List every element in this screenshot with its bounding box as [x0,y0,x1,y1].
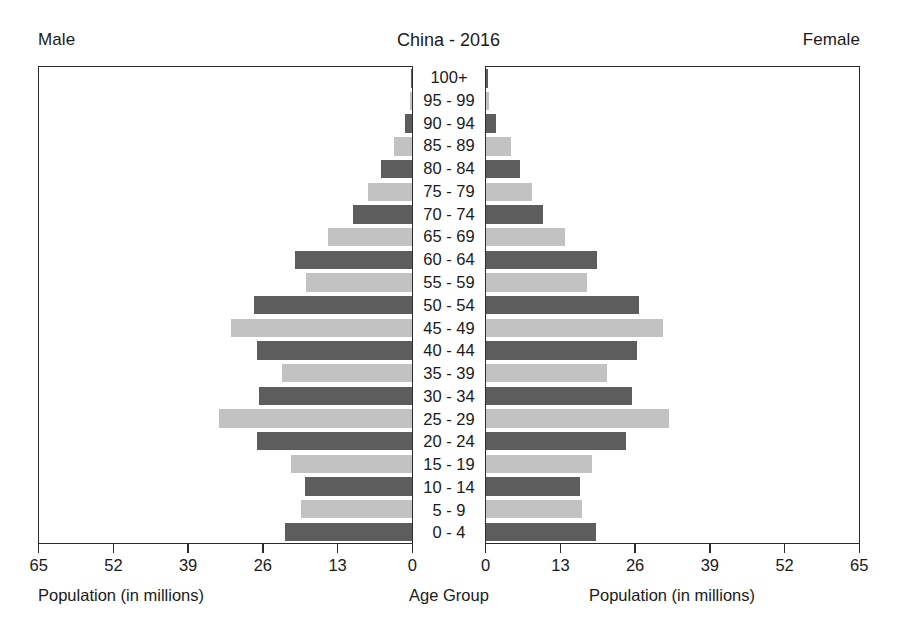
bar-row [486,407,859,430]
female-side-label: Female [803,30,860,50]
bar-row [486,271,859,294]
axis-tick-label: 13 [328,556,346,575]
bar-row [39,316,412,339]
bar-row [486,135,859,158]
bar-row [39,430,412,453]
bar-row [486,498,859,521]
axis-tick-label: 0 [481,556,490,575]
axis-tick [337,544,338,553]
male-bar-rows [39,67,412,543]
age-group-label: 25 - 29 [413,407,485,430]
age-group-label: 30 - 34 [413,385,485,408]
male-bar [282,364,412,382]
bar-row [486,430,859,453]
female-bar [486,273,587,291]
female-axis-caption: Population (in millions) [589,586,755,605]
female-bar [486,137,511,155]
age-group-label: 40 - 44 [413,339,485,362]
bar-row [39,384,412,407]
bar-row [486,67,859,90]
male-bar [295,251,412,269]
female-bar [486,228,565,246]
axis-tick-label: 39 [701,556,719,575]
age-group-label: 100+ [413,66,485,89]
bar-row [486,452,859,475]
bar-row [39,294,412,317]
axis-tick [485,544,486,553]
female-bar [486,205,543,223]
male-bar [411,69,412,87]
age-group-label: 90 - 94 [413,112,485,135]
axis-tick [187,544,188,553]
age-group-axis: 100+95 - 9990 - 9485 - 8980 - 8475 - 797… [413,66,485,544]
bar-row [39,112,412,135]
bar-row [39,248,412,271]
age-group-label: 55 - 59 [413,271,485,294]
bar-row [486,180,859,203]
female-bar [486,160,520,178]
age-group-label: 80 - 84 [413,157,485,180]
bar-row [39,498,412,521]
bar-row [486,384,859,407]
age-group-label: 85 - 89 [413,134,485,157]
axis-tick-label: 39 [179,556,197,575]
male-bar [291,455,412,473]
female-bar [486,455,592,473]
axis-tick-label: 0 [408,556,417,575]
age-group-label: 60 - 64 [413,248,485,271]
axis-tick-label: 13 [551,556,569,575]
male-bar [328,228,412,246]
chart-header: Male China - 2016 Female [0,30,897,54]
bar-row [486,248,859,271]
bar-row [39,362,412,385]
axis-tick [859,544,860,553]
male-bar [259,387,412,405]
age-group-label: 50 - 54 [413,294,485,317]
axis-tick [709,544,710,553]
bar-row [39,90,412,113]
axis-tick [560,544,561,553]
age-group-label: 20 - 24 [413,430,485,453]
age-group-label: 45 - 49 [413,316,485,339]
bar-row [486,362,859,385]
bar-row [486,226,859,249]
female-bar [486,477,580,495]
bar-row [39,452,412,475]
age-group-label: 15 - 19 [413,453,485,476]
age-group-label: 5 - 9 [413,499,485,522]
male-bar [219,409,412,427]
bar-row [486,90,859,113]
bar-row [39,67,412,90]
age-group-label: 0 - 4 [413,521,485,544]
male-bar [305,477,412,495]
male-bar [368,183,412,201]
age-group-label: 95 - 99 [413,89,485,112]
female-bar [486,432,626,450]
bar-row [39,203,412,226]
axis-tick [38,544,39,553]
female-bar-rows [486,67,859,543]
bar-row [486,112,859,135]
age-group-label: 75 - 79 [413,180,485,203]
bar-row [39,226,412,249]
age-group-caption: Age Group [409,586,489,605]
age-group-label: 10 - 14 [413,476,485,499]
bar-row [486,294,859,317]
female-bar [486,523,596,541]
female-bar [486,69,488,87]
female-bar [486,341,637,359]
axis-tick-label: 65 [850,556,868,575]
chart-title: China - 2016 [0,30,897,51]
female-bar [486,387,632,405]
bar-row [486,339,859,362]
bar-row [39,271,412,294]
female-bar [486,114,496,132]
male-bar [394,137,412,155]
bar-row [486,316,859,339]
male-axis-caption: Population (in millions) [38,586,204,605]
axis-tick-label: 26 [254,556,272,575]
male-bar [405,114,412,132]
male-bar [257,432,413,450]
male-bar [301,500,412,518]
female-bar [486,183,532,201]
